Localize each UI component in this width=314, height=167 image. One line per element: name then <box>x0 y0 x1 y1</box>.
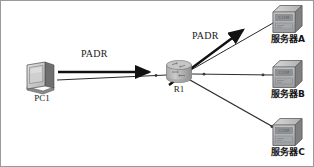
server-face-text: COM <box>278 15 289 20</box>
node-label-r1: R1 <box>166 85 192 94</box>
server-box-icon: COM <box>272 117 303 147</box>
network-topology-diagram: PC1 R1 C <box>0 0 314 167</box>
server-face-text: COM <box>278 70 289 75</box>
node-server-c[interactable]: COM 服务器C <box>272 117 303 151</box>
link-pc-router <box>44 74 167 81</box>
node-label-server-a: 服务器A <box>269 35 307 44</box>
flow-label-padr-router-to-server-a: PADR <box>192 30 219 41</box>
link-router-server-c <box>190 80 275 128</box>
node-server-b[interactable]: COM 服务器B <box>272 59 303 93</box>
server-box-icon: COM <box>272 4 303 34</box>
desktop-computer-icon <box>23 58 59 96</box>
router-cylinder-icon <box>164 60 194 86</box>
node-server-a[interactable]: COM 服务器A <box>272 4 303 38</box>
link-router-server-b <box>192 73 273 77</box>
flow-label-padr-pc-to-router: PADR <box>81 48 108 59</box>
server-face-text: COM <box>278 128 289 133</box>
node-label-server-c: 服务器C <box>269 148 307 157</box>
node-label-pc1: PC1 <box>27 94 57 103</box>
node-label-server-b: 服务器B <box>269 90 307 99</box>
server-box-icon: COM <box>272 59 303 89</box>
node-pc1[interactable]: PC1 <box>23 58 59 100</box>
node-r1[interactable]: R1 <box>164 60 194 90</box>
